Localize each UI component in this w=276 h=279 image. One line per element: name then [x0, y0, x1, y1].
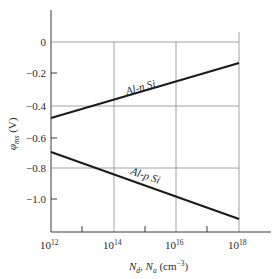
svg-text:1012: 1012 [40, 238, 59, 251]
svg-text:−0.6: −0.6 [26, 132, 46, 144]
svg-text:1018: 1018 [228, 238, 247, 251]
svg-text:−0.2: −0.2 [26, 67, 46, 79]
y-tick-labels: 0 −0.2 −0.4 −0.6 −0.8 −1.0 [26, 36, 46, 205]
chart: Al-n Si Al-p Si 0 −0.2 −0.4 −0.6 −0.8 −1… [0, 0, 276, 279]
svg-text:1014: 1014 [103, 238, 122, 251]
gridlines [51, 32, 239, 232]
series-al-p-si-label: Al-p Si [128, 164, 161, 186]
svg-text:1016: 1016 [165, 238, 184, 251]
series-al-n-si-label: Al-n Si [123, 77, 156, 97]
svg-text:−0.4: −0.4 [26, 100, 46, 112]
x-axis-title: Nd, Na (cm−3) [128, 259, 189, 275]
x-tick-labels: 1012 1014 1016 1018 [40, 238, 247, 251]
axes [51, 10, 271, 232]
svg-text:−0.8: −0.8 [26, 162, 46, 174]
svg-text:−1.0: −1.0 [26, 193, 46, 205]
svg-text:0: 0 [41, 36, 47, 48]
y-axis-title: φms (V) [6, 117, 21, 150]
series-al-p-si-line [51, 152, 239, 219]
